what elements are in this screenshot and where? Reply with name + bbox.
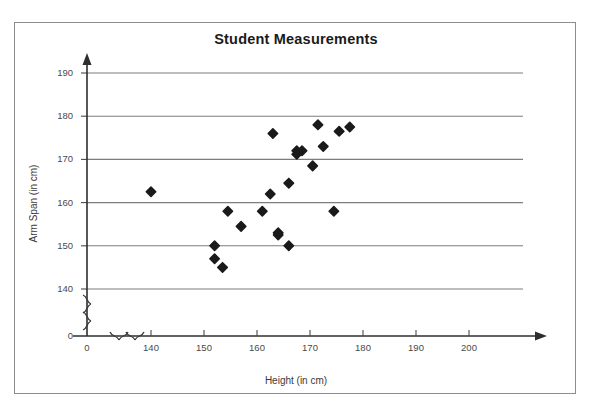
data-point-10: 166, 150 <box>284 241 293 250</box>
data-point-5: 157, 154.5 <box>236 222 245 231</box>
data-point-6: 161, 158 <box>258 207 267 216</box>
y-axis-arrowhead <box>83 53 92 65</box>
y-axis-title: Arm Span (in cm) <box>28 134 39 274</box>
y-tick-label-150: 150 <box>39 240 73 251</box>
data-point-18: 172.5, 173 <box>319 142 328 151</box>
chart-figure: Student Measurements 140, 162.5152, 1501… <box>14 22 576 394</box>
y-tick-label-140: 140 <box>39 283 73 294</box>
data-point-12: 163, 176 <box>268 129 277 138</box>
x-tick-label-190: 190 <box>396 342 436 353</box>
data-point-9: 162.5, 162 <box>266 189 275 198</box>
data-point-16: 170.5, 168.5 <box>308 161 317 170</box>
data-point-19: 174.5, 158 <box>329 207 338 216</box>
x-axis-arrowhead <box>535 332 547 341</box>
data-point-0: 140, 162.5 <box>146 187 155 196</box>
y-origin-label: 0 <box>39 330 73 341</box>
data-point-20: 175.5, 176.5 <box>334 127 343 136</box>
y-tick-label-190: 190 <box>39 67 73 78</box>
y-tick-label-160: 160 <box>39 197 73 208</box>
data-point-21: 177.5, 177.5 <box>345 122 354 131</box>
data-point-2: 152, 147 <box>210 254 219 263</box>
data-point-1: 152, 150 <box>210 241 219 250</box>
x-tick-label-150: 150 <box>184 342 224 353</box>
x-origin-label: 0 <box>67 342 107 353</box>
data-points-group: 140, 162.5152, 150152, 147153.5, 145154.… <box>146 120 354 272</box>
x-axis-title: Height (in cm) <box>15 375 577 386</box>
data-point-4: 154.5, 158 <box>223 207 232 216</box>
data-point-17: 171.5, 178 <box>313 120 322 129</box>
y-tick-label-180: 180 <box>39 110 73 121</box>
y-tick-label-170: 170 <box>39 153 73 164</box>
x-tick-label-160: 160 <box>237 342 277 353</box>
x-tick-label-170: 170 <box>290 342 330 353</box>
x-tick-label-200: 200 <box>449 342 489 353</box>
x-tick-label-180: 180 <box>343 342 383 353</box>
plot-svg: 140, 162.5152, 150152, 147153.5, 145154.… <box>15 23 577 395</box>
page-cutoff-text <box>0 0 590 16</box>
scatter-plot-area: 140, 162.5152, 150152, 147153.5, 145154.… <box>15 23 577 395</box>
x-tick-label-140: 140 <box>131 342 171 353</box>
data-point-3: 153.5, 145 <box>218 263 227 272</box>
data-point-11: 166, 164.5 <box>284 178 293 187</box>
